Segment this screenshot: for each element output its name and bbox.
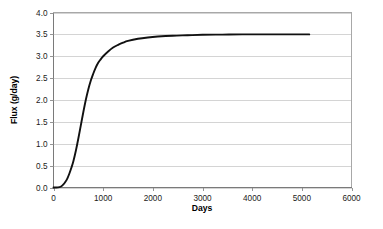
y-tick-label-2.0: 2.0 <box>36 96 48 105</box>
x-axis-title: Days <box>192 203 213 213</box>
y-tick-labels-group: 0.00.51.01.52.02.53.03.54.0 <box>36 9 48 193</box>
flux-vs-days-line-chart: 0.00.51.01.52.02.53.03.54.0 010002000300… <box>0 0 383 229</box>
x-tick-label-5000: 5000 <box>293 194 312 203</box>
y-tick-label-0.0: 0.0 <box>36 184 48 193</box>
y-tick-label-3.5: 3.5 <box>36 30 48 39</box>
x-tick-label-1000: 1000 <box>94 194 113 203</box>
x-tick-label-6000: 6000 <box>342 194 361 203</box>
y-axis-title: Flux (g/day) <box>9 76 19 124</box>
y-tick-label-2.5: 2.5 <box>36 74 48 83</box>
x-tick-label-4000: 4000 <box>243 194 262 203</box>
x-tick-label-2000: 2000 <box>144 194 163 203</box>
y-tick-label-1.0: 1.0 <box>36 140 48 149</box>
x-tick-label-3000: 3000 <box>193 194 212 203</box>
chart-figure: 0.00.51.01.52.02.53.03.54.0 010002000300… <box>0 0 383 229</box>
y-tick-label-3.0: 3.0 <box>36 52 48 61</box>
x-tick-label-0: 0 <box>51 194 56 203</box>
y-tick-label-4.0: 4.0 <box>36 9 48 18</box>
y-tick-label-1.5: 1.5 <box>36 118 48 127</box>
y-tick-label-0.5: 0.5 <box>36 162 48 171</box>
